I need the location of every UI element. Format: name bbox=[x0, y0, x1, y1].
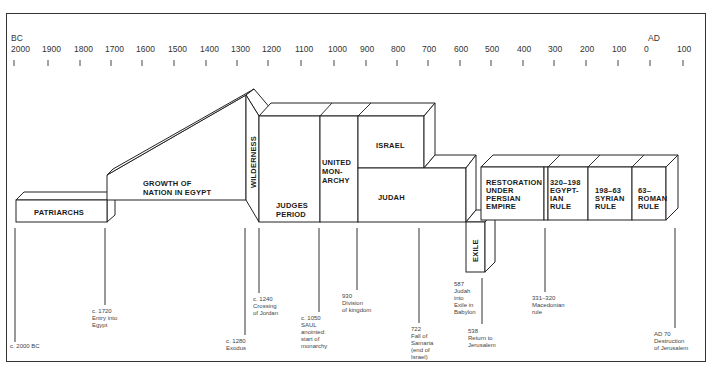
tick-label: 1100 bbox=[295, 44, 314, 54]
era-label-judah: JUDAH bbox=[378, 193, 405, 202]
tick-label: 1400 bbox=[200, 44, 219, 54]
era-label-united-2: MON- bbox=[322, 167, 343, 176]
tick-label: 200 bbox=[580, 44, 594, 54]
tick-label: 1300 bbox=[231, 44, 250, 54]
event-annotation: c. 1280Exodus bbox=[226, 338, 246, 351]
tick-label: 0 bbox=[644, 44, 649, 54]
timeline-diagram: BC AD 2000190018001700160015001400130012… bbox=[0, 0, 714, 369]
tick-label: 1500 bbox=[168, 44, 187, 54]
era-label-patriarchs: PATRIARCHS bbox=[34, 208, 84, 217]
tick-label: 1600 bbox=[136, 44, 155, 54]
tick-label: 1800 bbox=[74, 44, 93, 54]
era-label-exile: EXILE bbox=[471, 239, 480, 262]
era-label-judges-2: PERIOD bbox=[276, 210, 306, 219]
tick-label: 1900 bbox=[42, 44, 61, 54]
event-annotation: c. 2000 BC bbox=[10, 343, 40, 349]
era-patriarchs: PATRIARCHS bbox=[16, 192, 115, 222]
event-annotations: c. 2000 BCc. 1720Entry intoEgyptc. 1280E… bbox=[10, 281, 688, 360]
tick-label: 600 bbox=[454, 44, 468, 54]
event-annotation: AD 70Destructionof Jerusalem bbox=[654, 331, 688, 351]
era-label-united-3: ARCHY bbox=[322, 176, 350, 185]
tick-label: 800 bbox=[391, 44, 405, 54]
tick-label: 400 bbox=[517, 44, 531, 54]
tick-label: 100 bbox=[612, 44, 626, 54]
era-label-israel: ISRAEL bbox=[376, 141, 405, 150]
event-annotation: c. 1050SAULanointed:start ofmonarchy bbox=[301, 315, 327, 349]
era-label-roman-3: RULE bbox=[638, 202, 659, 211]
event-annotation: 331–320Macedonianrule bbox=[532, 295, 565, 315]
tick-label: 300 bbox=[548, 44, 562, 54]
tick-label: 900 bbox=[360, 44, 374, 54]
era-label-judges-1: JUDGES bbox=[276, 201, 308, 210]
tick-label: 1700 bbox=[105, 44, 124, 54]
event-annotation: c. 1720Entry intoEgypt bbox=[92, 308, 118, 328]
event-annotation: c. 1240Crossingof Jordan bbox=[253, 296, 278, 316]
era-label-egypt-2: NATION IN EGYPT bbox=[143, 188, 211, 197]
era-label-united-1: UNITED bbox=[322, 158, 352, 167]
tick-label: 1000 bbox=[328, 44, 347, 54]
era-label-egypt-1: GROWTH OF bbox=[143, 179, 192, 188]
tick-label: 1200 bbox=[262, 44, 281, 54]
era-label-egyptian-4: RULE bbox=[550, 202, 571, 211]
time-axis: BC AD 2000190018001700160015001400130012… bbox=[11, 33, 691, 66]
tick-label: 100 bbox=[677, 44, 691, 54]
era-label-bc: BC bbox=[11, 33, 23, 43]
era-egypt: GROWTH OF NATION IN EGYPT bbox=[107, 89, 254, 200]
tick-label: 700 bbox=[422, 44, 436, 54]
event-annotation: 930Divisionof kingdom bbox=[342, 293, 371, 313]
era-label-persian-4: EMPIRE bbox=[486, 202, 516, 211]
event-annotation: 587JudahintoExile inBabylon bbox=[454, 281, 476, 315]
era-label-wilderness: WILDERNESS bbox=[249, 136, 258, 188]
event-annotation: 722Fall ofSamaria(end ofIsrael) bbox=[411, 326, 434, 360]
era-label-syrian-3: RULE bbox=[595, 202, 616, 211]
era-label-ad: AD bbox=[648, 33, 660, 43]
tick-label: 2000 bbox=[11, 44, 30, 54]
event-annotation: 538Return toJerusalem bbox=[468, 328, 496, 348]
tick-label: 500 bbox=[485, 44, 499, 54]
event-stems bbox=[15, 228, 675, 342]
